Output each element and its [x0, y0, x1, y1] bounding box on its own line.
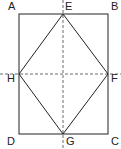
label-d: D: [7, 135, 15, 147]
geometry-diagram: A E B H F D G C: [0, 0, 121, 149]
label-h: H: [7, 72, 15, 84]
label-a: A: [8, 0, 16, 12]
label-f: F: [111, 72, 118, 84]
label-e: E: [65, 0, 72, 12]
label-g: G: [66, 135, 75, 147]
label-b: B: [111, 0, 118, 12]
label-c: C: [111, 135, 119, 147]
